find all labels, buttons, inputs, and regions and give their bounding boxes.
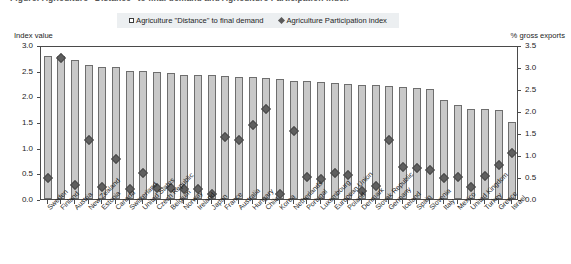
left-tick-label: 3.0 [13, 41, 33, 50]
marker-united-states [138, 169, 148, 179]
marker-chile [261, 104, 271, 114]
right-tick-label: 3.5 [525, 41, 545, 50]
right-tick-mark [518, 68, 521, 69]
x-tick [361, 200, 362, 204]
right-tick-mark [518, 46, 521, 47]
legend-item-distance: Agriculture "Distance" to final demand [129, 16, 263, 25]
x-tick [293, 200, 294, 204]
marker-finland [57, 53, 67, 63]
right-tick-mark [518, 200, 521, 201]
right-tick-label: 1.5 [525, 129, 545, 138]
left-tick-mark [37, 200, 40, 201]
x-tick [375, 200, 376, 204]
x-tick [279, 200, 280, 204]
x-tick [306, 200, 307, 204]
marker-australia [234, 135, 244, 145]
x-tick [443, 200, 444, 204]
x-tick [252, 200, 253, 204]
x-tick [457, 200, 458, 204]
marker-portugal [302, 172, 312, 182]
left-tick-label: 0.5 [13, 169, 33, 178]
x-tick [265, 200, 266, 204]
markers-layer [41, 47, 517, 199]
marker-norway [179, 184, 189, 194]
x-tick [156, 200, 157, 204]
x-tick [402, 200, 403, 204]
x-tick [320, 200, 321, 204]
x-tick [498, 200, 499, 204]
filled-diamond-icon [278, 17, 285, 24]
marker-austria [70, 180, 80, 190]
legend-label-participation: Agriculture Participation index [286, 16, 386, 25]
legend-label-distance: Agriculture "Distance" to final demand [136, 16, 263, 25]
marker-poland [343, 170, 353, 180]
right-tick-label: 0.0 [525, 195, 545, 204]
right-tick-mark [518, 178, 521, 179]
figure-title-clipped: Figure: Agriculture "Distance" to final … [0, 0, 571, 6]
right-tick-label: 3.0 [525, 63, 545, 72]
right-tick-mark [518, 134, 521, 135]
marker-european-union [330, 168, 340, 178]
marker-denmark [357, 186, 367, 196]
right-tick-label: 2.5 [525, 85, 545, 94]
x-tick [224, 200, 225, 204]
x-tick [88, 200, 89, 204]
marker-slovak-republic [371, 181, 381, 191]
right-axis-caption: % gross exports [511, 31, 565, 40]
marker-switzerland [125, 184, 135, 194]
marker-new-zealand [84, 135, 94, 145]
left-axis-caption: Index value [14, 31, 53, 40]
marker-turkey [480, 171, 490, 181]
left-tick-label: 1.0 [13, 144, 33, 153]
marker-slovenia [425, 165, 435, 175]
x-tick [347, 200, 348, 204]
x-tick [416, 200, 417, 204]
marker-italy [439, 173, 449, 183]
x-tick [142, 200, 143, 204]
x-tick [511, 200, 512, 204]
x-tick [197, 200, 198, 204]
x-tick [388, 200, 389, 204]
legend-item-participation: Agriculture Participation index [279, 16, 386, 25]
left-tick-label: 1.5 [13, 118, 33, 127]
x-tick [47, 200, 48, 204]
marker-iceland [398, 162, 408, 172]
marker-sweden [43, 173, 53, 183]
marker-netherlands [289, 126, 299, 136]
x-tick [470, 200, 471, 204]
marker-czech-republic [152, 183, 162, 193]
marker-luxembourg [316, 174, 326, 184]
marker-hungary [248, 120, 258, 130]
x-tick [484, 200, 485, 204]
marker-spain [412, 163, 422, 173]
marker-belgium [166, 183, 176, 193]
left-tick-label: 2.5 [13, 67, 33, 76]
x-tick [238, 200, 239, 204]
x-tick [115, 200, 116, 204]
right-tick-label: 0.5 [525, 173, 545, 182]
x-tick [74, 200, 75, 204]
x-tick [429, 200, 430, 204]
plot-area [40, 46, 518, 200]
x-tick [101, 200, 102, 204]
open-square-icon [129, 18, 134, 23]
right-tick-mark [518, 156, 521, 157]
marker-estonia [98, 182, 108, 192]
left-tick-label: 0.0 [13, 195, 33, 204]
right-tick-label: 2.0 [525, 107, 545, 116]
x-tick [211, 200, 212, 204]
marker-germany [384, 135, 394, 145]
x-tick [129, 200, 130, 204]
x-tick [183, 200, 184, 204]
left-tick-label: 2.0 [13, 92, 33, 101]
marker-mexico [453, 172, 463, 182]
marker-greece [494, 160, 504, 170]
marker-israel [507, 148, 517, 158]
marker-canada [111, 154, 121, 164]
marker-france [220, 132, 230, 142]
marker-korea [275, 189, 285, 199]
right-tick-label: 1.0 [525, 151, 545, 160]
figure-title-text: Figure: Agriculture "Distance" to final … [10, 0, 349, 3]
x-tick [170, 200, 171, 204]
marker-ireland [193, 184, 203, 194]
